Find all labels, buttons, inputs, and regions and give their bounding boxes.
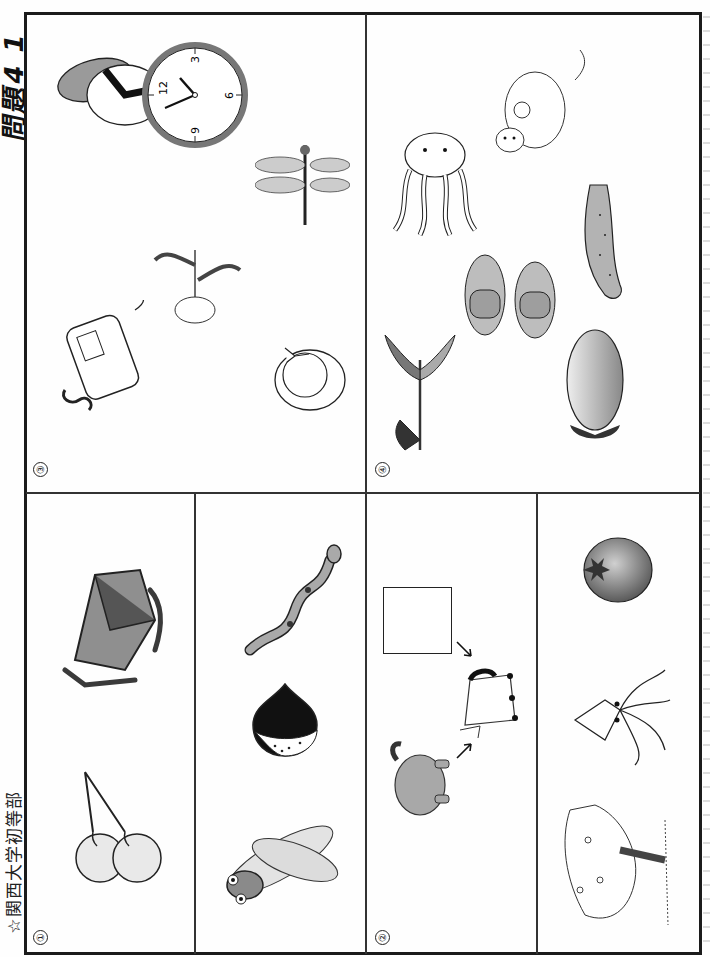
sled-picture <box>55 560 175 690</box>
clock-numeral-9: 9 <box>189 127 202 134</box>
school-name-text: ☆関西大学初等部 <box>0 791 25 933</box>
squid-picture <box>565 660 675 770</box>
elephant-picture <box>385 740 455 820</box>
arrow-lower <box>455 740 475 760</box>
answer-box[interactable] <box>383 587 452 654</box>
divider-panel2-rows <box>536 493 538 954</box>
eggplant-picture <box>555 325 635 450</box>
margin-notes <box>703 10 710 950</box>
problem-label: 問題4 1 <box>0 0 24 170</box>
hat-picture <box>265 330 355 420</box>
cherry-blossom-tree-picture <box>560 800 685 930</box>
tulip-picture <box>375 330 465 460</box>
cucumber-picture <box>575 175 630 305</box>
clock-picture: 12 3 6 9 <box>140 40 250 150</box>
cicada-picture <box>215 805 345 915</box>
chrysanthemum-picture <box>140 230 250 325</box>
octopus-picture <box>380 130 490 240</box>
divider-panel1-rows <box>194 493 196 954</box>
snake-picture <box>240 540 350 660</box>
clock-numeral-12: 12 <box>157 81 170 95</box>
panel-number-3: ③ <box>33 462 48 477</box>
telephone-picture <box>45 300 155 420</box>
slippers-picture <box>455 250 565 345</box>
clock-numeral-3: 3 <box>189 56 202 63</box>
clock-numeral-6: 6 <box>223 92 236 99</box>
panel-number-4: ④ <box>375 462 390 477</box>
kangaroo-picture <box>480 40 590 165</box>
school-name: ☆関西大学初等部 <box>2 770 22 955</box>
panel-number-1: ① <box>33 930 48 945</box>
horse-picture <box>450 660 530 740</box>
cherries-picture <box>55 770 165 890</box>
panel-number-2: ② <box>375 930 390 945</box>
tomato-picture <box>578 530 658 605</box>
chestnut-picture <box>245 680 325 760</box>
divider-horizontal-main <box>26 492 700 494</box>
arrow-upper <box>455 640 475 660</box>
worksheet-page: 問題4 1 ☆関西大学初等部 ① ② ③ ④ <box>0 0 710 957</box>
divider-vertical-main <box>365 14 367 954</box>
dragonfly-picture <box>255 140 350 230</box>
